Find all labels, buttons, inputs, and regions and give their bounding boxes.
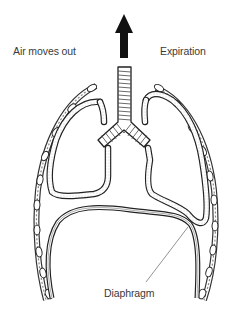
expiration-diagram: Air moves out Expiration Diaphragm (0, 0, 236, 314)
left-lung (50, 102, 108, 196)
diaphragm-pointer-line (146, 227, 188, 282)
diaphragm-label: Diaphragm (104, 287, 154, 299)
right-lung (144, 94, 206, 223)
diaphragm (48, 208, 198, 298)
air-out-arrow-icon (115, 14, 133, 58)
air-moves-out-label: Air moves out (13, 45, 76, 57)
expiration-label: Expiration (160, 45, 206, 57)
